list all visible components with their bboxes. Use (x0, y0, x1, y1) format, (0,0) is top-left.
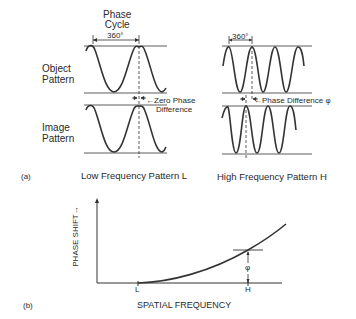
object-pattern-label: Object Pattern (42, 63, 74, 85)
y-axis-label: PHASE SHIFT→ (71, 206, 80, 266)
object-low-wave (86, 46, 166, 92)
low-cycle-value: 360° (107, 31, 124, 40)
tick-label-h: H (245, 285, 251, 294)
image-label-line1: Image (42, 122, 74, 133)
image-pattern-label: Image Pattern (42, 122, 74, 144)
x-axis-label: SPATIAL FREQUENCY (137, 300, 231, 311)
zero-phase-label: ←Zero Phase Difference (146, 96, 195, 114)
zero-phase-line1: ←Zero Phase (146, 96, 195, 105)
phi-symbol: φ (245, 263, 250, 272)
phase-difference-label: ←Phase Difference φ (254, 96, 331, 105)
high-cycle-value: 360° (232, 32, 249, 41)
diagram-canvas (0, 0, 356, 319)
object-high-wave (223, 47, 304, 92)
image-label-line2: Pattern (42, 133, 74, 144)
zero-phase-line2: Difference (146, 105, 195, 114)
tick-label-l: L (135, 285, 139, 294)
cycle-word: Cycle (103, 20, 131, 30)
object-label-line2: Pattern (42, 74, 74, 85)
panel-a-label: (a) (21, 172, 31, 181)
low-frequency-caption: Low Frequency Pattern L (81, 170, 187, 181)
phase-cycle-title: Phase Cycle (103, 10, 131, 30)
image-high-wave (222, 106, 296, 153)
object-label-line1: Object (42, 63, 74, 74)
phase-curve (138, 224, 286, 283)
panel-b-label: (b) (23, 301, 33, 310)
high-frequency-caption: High Frequency Pattern H (217, 171, 327, 182)
